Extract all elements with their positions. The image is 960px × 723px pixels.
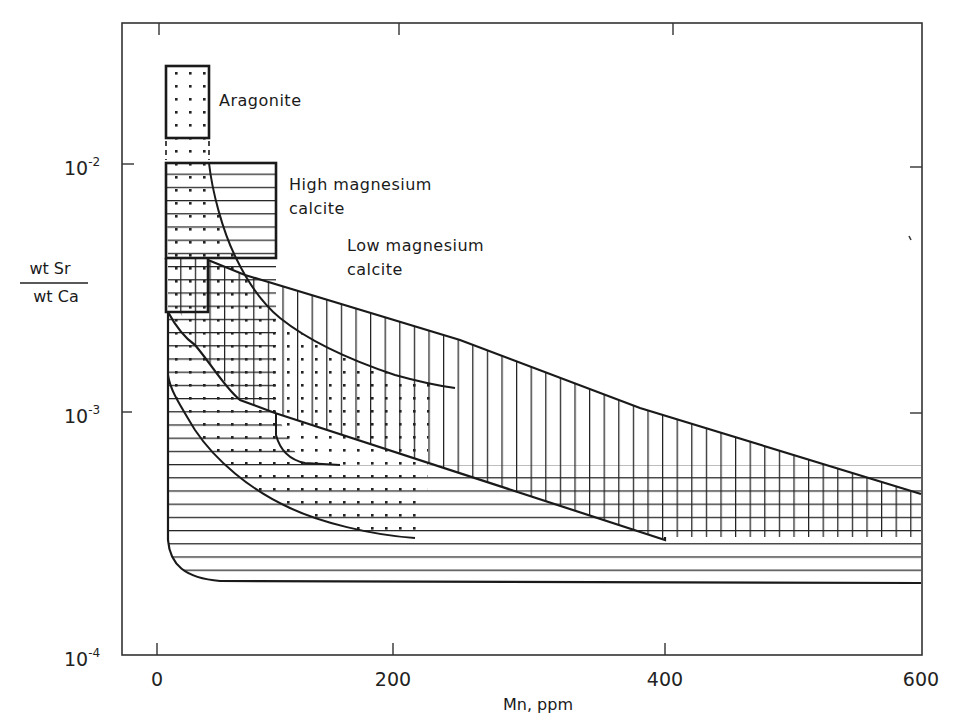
label-low-mg-1: Low magnesium <box>347 236 484 255</box>
speck-mark <box>909 236 911 240</box>
sr-ca-vs-mn-chart: Aragonite High magnesium calcite Low mag… <box>0 0 960 723</box>
y-tick-1e-3: 10-3 <box>64 403 100 427</box>
x-tick-400: 400 <box>647 668 683 690</box>
x-tick-0: 0 <box>151 668 163 690</box>
svg-text:10-3: 10-3 <box>64 403 100 427</box>
y-label-numerator: wt Sr <box>29 259 71 278</box>
svg-text:10-4: 10-4 <box>64 646 100 670</box>
label-high-mg-1: High magnesium <box>289 175 432 194</box>
label-aragonite: Aragonite <box>219 91 301 110</box>
x-tick-600: 600 <box>903 668 939 690</box>
x-tick-200: 200 <box>375 668 411 690</box>
y-tick-1e-4: 10-4 <box>64 646 100 670</box>
x-axis-label: Mn, ppm <box>503 695 573 714</box>
label-low-mg-2: calcite <box>347 260 403 279</box>
y-label-denominator: wt Ca <box>33 287 78 306</box>
svg-text:10-2: 10-2 <box>64 155 100 179</box>
y-tick-1e-2: 10-2 <box>64 155 100 179</box>
label-high-mg-2: calcite <box>289 199 345 218</box>
